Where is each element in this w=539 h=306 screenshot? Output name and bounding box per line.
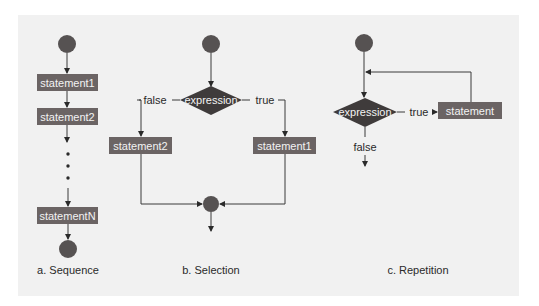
- loop-statement-label: statement: [446, 105, 494, 117]
- flow-arrow: [141, 154, 202, 204]
- start-node: [202, 35, 220, 53]
- false-label: false: [143, 94, 166, 106]
- statement-label-2: statement2: [40, 111, 94, 123]
- control-structures-diagram: statement1 statement2 statementN a. Sequ…: [0, 0, 539, 306]
- merge-node: [203, 196, 219, 212]
- false-label: false: [353, 141, 376, 153]
- statement-label-1: statement1: [40, 77, 94, 89]
- repetition-structure: expression true statement false c. Repet…: [333, 34, 502, 276]
- flow-arrow: [278, 100, 285, 136]
- caption-selection: b. Selection: [182, 264, 239, 276]
- selection-structure: expression false statement2 true stateme…: [109, 35, 316, 276]
- start-node: [355, 34, 373, 52]
- flow-arrow: [140, 100, 141, 136]
- caption-sequence: a. Sequence: [37, 264, 99, 276]
- caption-repetition: c. Repetition: [387, 264, 448, 276]
- loop-back-arrow: [366, 72, 471, 102]
- start-node: [58, 35, 76, 53]
- true-label: true: [256, 94, 275, 106]
- decision-condition: expression: [338, 106, 391, 118]
- ellipsis-dot: [66, 152, 69, 155]
- ellipsis-dot: [66, 164, 69, 167]
- false-statement-label: statement2: [113, 140, 167, 152]
- true-statement-label: statement1: [257, 140, 311, 152]
- ellipsis-dot: [66, 176, 69, 179]
- decision-condition: expression: [184, 94, 237, 106]
- statement-label-n: statementN: [39, 210, 95, 222]
- flow-arrow: [220, 154, 285, 204]
- sequence-structure: statement1 statement2 statementN a. Sequ…: [37, 35, 99, 276]
- end-node: [59, 240, 77, 258]
- true-label: true: [410, 106, 429, 118]
